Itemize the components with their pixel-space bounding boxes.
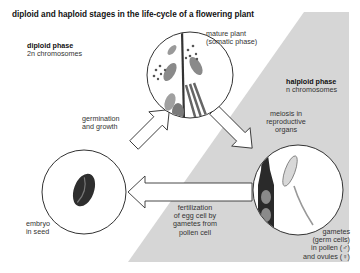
haploid-phase-label: halploid phase n chromosomes (286, 78, 337, 94)
meiosis-label: meiosis in reproductive organs (256, 110, 316, 135)
haploid-phase-detail: n chromosomes (286, 85, 337, 94)
fertilization-label: fertilization of egg cell by gametes fro… (165, 204, 225, 237)
gametes-label: gametes (germ cells) in pollen (♂) and o… (290, 228, 350, 261)
germination-label: germination and growth (82, 115, 120, 131)
diploid-phase-label: diploid phase 2n chromosomes (27, 42, 82, 58)
embryo-label: embryo in seed (26, 220, 50, 236)
diploid-phase-detail: 2n chromosomes (27, 49, 82, 58)
embryo-circle (42, 150, 126, 234)
mature-plant-line2: (somatic phase) (206, 38, 257, 46)
embryo-line2: in seed (26, 228, 50, 236)
diagram-title: diploid and haploid stages in the life-c… (12, 10, 254, 19)
mature-plant-label: mature plant (somatic phase) (206, 30, 257, 46)
fertilization-line4: pollen cell (165, 229, 225, 237)
gametes-line4: and ovules (♀) (290, 253, 350, 261)
meiosis-line3: organs (256, 126, 316, 134)
germination-line2: and growth (82, 123, 120, 131)
